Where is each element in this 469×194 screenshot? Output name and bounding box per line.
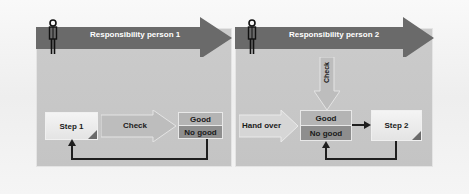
hand-over-label: Hand over bbox=[242, 121, 281, 130]
feedback-connector bbox=[206, 139, 208, 160]
check-vertical-label: Check bbox=[323, 58, 330, 88]
responsibility-banner-1: Responsibility person 1 bbox=[36, 17, 234, 57]
decision-box-2: Good No good bbox=[300, 110, 352, 141]
good-cell: Good bbox=[301, 111, 351, 126]
step-1-box: Step 1 bbox=[45, 112, 98, 140]
feedback-connector bbox=[325, 147, 327, 159]
banner-label-1: Responsibility person 1 bbox=[90, 30, 180, 39]
good-to-step-2-connector bbox=[352, 124, 366, 126]
corner-mark-icon bbox=[412, 131, 421, 140]
feedback-connector bbox=[71, 144, 73, 159]
good-cell: Good bbox=[179, 113, 222, 126]
feedback-connector bbox=[325, 158, 397, 160]
corner-mark-icon bbox=[88, 130, 97, 139]
person-icon bbox=[246, 19, 258, 59]
person-icon bbox=[47, 19, 59, 59]
step-2-label: Step 2 bbox=[384, 121, 408, 130]
no-good-cell: No good bbox=[301, 126, 351, 140]
decision-box-1: Good No good bbox=[178, 112, 223, 139]
responsibility-banner-2: Responsibility person 2 bbox=[235, 17, 435, 57]
feedback-connector bbox=[71, 158, 207, 160]
check-label: Check bbox=[123, 121, 147, 130]
step-1-label: Step 1 bbox=[59, 122, 83, 131]
banner-label-2: Responsibility person 2 bbox=[289, 30, 379, 39]
no-good-cell: No good bbox=[179, 126, 222, 138]
step-2-box: Step 2 bbox=[371, 110, 422, 141]
